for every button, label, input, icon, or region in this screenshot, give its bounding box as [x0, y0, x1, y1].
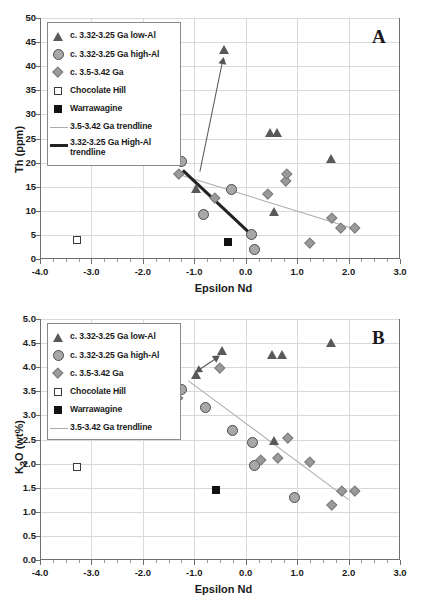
y-axis-tick: [36, 391, 40, 392]
y-axis-tick-label: 5.0: [6, 313, 36, 324]
legend-label: c. 3.5-3.42 Ga: [70, 364, 124, 378]
x-axis-tick: [400, 259, 401, 264]
gridline-vertical: [297, 320, 298, 559]
x-axis-tick: [194, 560, 195, 565]
x-axis-minor-tick: [79, 560, 80, 563]
x-axis-minor-tick: [66, 259, 67, 262]
legend-label: c. 3.32-3.25 Ga low-Al: [70, 328, 156, 342]
x-axis-minor-tick: [284, 259, 285, 262]
x-axis-minor-tick: [374, 259, 375, 262]
x-axis-tick-label: -1.0: [174, 567, 214, 578]
data-point: [219, 45, 229, 54]
legend-marker-line-dark: [48, 136, 70, 154]
y-axis-tick: [36, 163, 40, 164]
x-axis-minor-tick: [220, 259, 221, 262]
data-point: [277, 350, 287, 359]
legend-a: c. 3.32-3.25 Ga low-Alc. 3.32-3.25 Ga hi…: [47, 22, 181, 166]
data-point: [212, 486, 220, 494]
x-axis-tick-label: -1.0: [174, 266, 214, 277]
x-axis-minor-tick: [336, 259, 337, 262]
x-axis-tick-label: -2.0: [123, 266, 163, 277]
legend-label: Chocolate Hill: [70, 383, 126, 397]
x-axis-minor-tick: [361, 259, 362, 262]
x-axis-tick: [349, 259, 350, 264]
legend-item: 3.5-3.42 Ga trendline: [48, 118, 180, 136]
gridline-horizontal: [41, 18, 399, 19]
legend-marker-square-open: [48, 82, 70, 100]
square-filled-icon: [54, 406, 62, 414]
x-axis-tick: [349, 560, 350, 565]
x-axis-minor-tick: [130, 560, 131, 563]
figure-root: 05101520253035404550-4.0-3.0-2.0-1.00.01…: [0, 0, 447, 602]
legend-item: 3.5-3.42 Ga trendline: [48, 419, 180, 437]
y-axis-tick: [36, 367, 40, 368]
y-axis-tick: [36, 440, 40, 441]
legend-marker-triangle: [48, 27, 70, 45]
x-axis-minor-tick: [271, 560, 272, 563]
x-axis-minor-tick: [156, 560, 157, 563]
x-axis-minor-tick: [284, 560, 285, 563]
diamond-icon: [52, 67, 63, 78]
data-point: [73, 463, 81, 471]
y-axis-tick: [36, 18, 40, 19]
diamond-icon: [52, 368, 63, 379]
x-axis-minor-tick: [233, 259, 234, 262]
gridline-horizontal: [41, 211, 399, 212]
x-axis-tick: [143, 560, 144, 565]
x-axis-minor-tick: [323, 259, 324, 262]
data-point: [249, 244, 260, 255]
x-axis-tick: [91, 259, 92, 264]
y-axis-tick: [36, 464, 40, 465]
legend-item: c. 3.32-3.25 Ga low-Al: [48, 328, 180, 346]
legend-marker-line-light: [48, 118, 70, 136]
line-light-icon: [50, 127, 68, 128]
y-axis-tick-label: 15: [6, 181, 36, 192]
x-axis-tick-label: 1.0: [277, 567, 317, 578]
gridline-vertical: [349, 320, 350, 559]
gridline-vertical: [246, 19, 247, 258]
y-axis-tick: [36, 187, 40, 188]
x-axis-minor-tick: [310, 259, 311, 262]
x-axis-minor-tick: [79, 259, 80, 262]
x-axis-minor-tick: [66, 560, 67, 563]
data-point: [326, 338, 336, 347]
circle-icon: [53, 49, 64, 60]
data-point: [224, 238, 232, 246]
chart-panel-a: 05101520253035404550-4.0-3.0-2.0-1.00.01…: [0, 2, 447, 297]
y-axis-tick: [36, 319, 40, 320]
panel-label-a: A: [372, 26, 386, 48]
x-axis-minor-tick: [104, 560, 105, 563]
gridline-horizontal: [41, 512, 399, 513]
x-axis-minor-tick: [336, 560, 337, 563]
triangle-icon: [53, 333, 63, 342]
x-axis-minor-tick: [220, 560, 221, 563]
legend-label: 3.32-3.25 Ga High-Al trendline: [70, 136, 175, 157]
circle-icon: [53, 350, 64, 361]
x-axis-tick-label: -3.0: [71, 567, 111, 578]
data-point: [191, 184, 201, 193]
y-axis-tick: [36, 42, 40, 43]
square-filled-icon: [54, 105, 62, 113]
x-axis-tick: [143, 259, 144, 264]
y-axis-tick: [36, 114, 40, 115]
legend-marker-square-filled: [48, 401, 70, 419]
line-light-icon: [50, 428, 68, 429]
data-point: [289, 492, 300, 503]
legend-label: 3.5-3.42 Ga trendline: [70, 118, 152, 132]
x-axis-minor-tick: [310, 560, 311, 563]
x-axis-tick-label: 3.0: [380, 266, 420, 277]
data-point: [191, 370, 201, 379]
legend-label: c. 3.32-3.25 Ga high-Al: [70, 346, 159, 360]
x-axis-tick-label: -4.0: [20, 266, 60, 277]
x-axis-minor-tick: [117, 259, 118, 262]
y-axis-title: Th (ppm): [13, 125, 25, 172]
y-axis-title: K2O (wt%): [13, 420, 28, 474]
x-axis-minor-tick: [181, 259, 182, 262]
x-axis-minor-tick: [53, 560, 54, 563]
y-axis-tick-label: 5: [6, 229, 36, 240]
data-point: [269, 207, 279, 216]
gridline-vertical: [194, 19, 195, 258]
x-axis-minor-tick: [181, 560, 182, 563]
legend-item: c. 3.5-3.42 Ga: [48, 364, 180, 382]
y-axis-tick: [36, 512, 40, 513]
